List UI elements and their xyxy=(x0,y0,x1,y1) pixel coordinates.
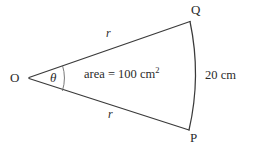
radius-label-bottom: r xyxy=(108,108,113,120)
sector-diagram: O Q P r r θ area = 100 cm2 20 cm xyxy=(0,0,253,148)
area-annotation-exponent: 2 xyxy=(155,65,159,75)
area-annotation: area = 100 cm2 xyxy=(84,68,160,81)
angle-label-theta: θ xyxy=(50,71,56,84)
point-label-p: P xyxy=(190,131,197,144)
radius-line-bottom xyxy=(29,79,189,131)
arc-curve-qp xyxy=(189,22,196,131)
area-annotation-text: area = 100 cm xyxy=(84,67,155,81)
radius-label-top: r xyxy=(106,27,111,39)
point-label-o: O xyxy=(10,71,20,84)
angle-arc-marker xyxy=(63,66,65,91)
chord-length-label: 20 cm xyxy=(205,69,236,82)
point-label-q: Q xyxy=(191,3,201,16)
